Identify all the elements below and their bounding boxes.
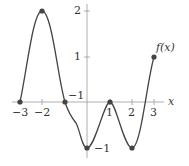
- series-label: f(x): [156, 42, 175, 53]
- annotation-label: −1: [68, 90, 84, 101]
- y-tick-label: 2: [74, 5, 81, 16]
- x-tick-label: −2: [34, 107, 50, 118]
- x-tick-label: 3: [150, 107, 157, 118]
- x-axis-label: x: [168, 96, 174, 107]
- x-tick-label: −3: [12, 107, 28, 118]
- x-tick-label: 1: [106, 107, 113, 118]
- y-tick-label: 1: [74, 51, 81, 62]
- annotation-label: −1: [94, 143, 110, 154]
- x-tick-label: 2: [128, 107, 135, 118]
